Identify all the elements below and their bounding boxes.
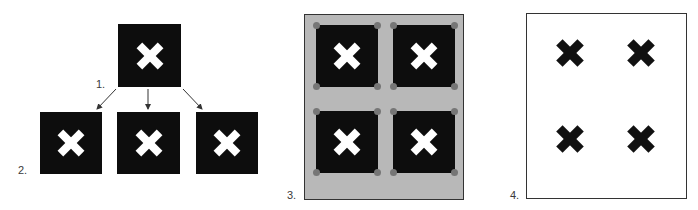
corner-dot-icon — [451, 169, 458, 176]
x-mark-icon — [409, 41, 439, 71]
corner-dot-icon — [374, 22, 381, 29]
corner-dot-icon — [313, 169, 320, 176]
corner-dot-icon — [313, 83, 320, 90]
copy-tile-2 — [117, 112, 180, 174]
sheet-tile-top-right — [393, 25, 455, 87]
gray-sheet — [304, 14, 464, 200]
x-mark-icon — [626, 124, 656, 154]
x-mark-icon — [626, 38, 656, 68]
corner-dot-icon — [451, 22, 458, 29]
x-mark-icon — [555, 124, 585, 154]
x-mark-icon — [409, 127, 439, 157]
step1-label: 1. — [96, 79, 105, 90]
corner-dot-icon — [374, 83, 381, 90]
copy-tile-3 — [196, 112, 258, 174]
step3-label: 3. — [287, 190, 296, 201]
arrow-right-icon — [183, 89, 202, 109]
x-mark-icon — [212, 128, 242, 158]
corner-dot-icon — [451, 83, 458, 90]
x-mark-icon — [555, 38, 585, 68]
arrow-left-icon — [97, 89, 116, 109]
sheet-tile-bottom-left — [316, 111, 378, 173]
step2-label: 2. — [18, 165, 27, 176]
corner-dot-icon — [390, 83, 397, 90]
step4-label: 4. — [510, 190, 519, 201]
corner-dot-icon — [451, 108, 458, 115]
printed-sheet — [526, 13, 687, 199]
corner-dot-icon — [313, 108, 320, 115]
corner-dot-icon — [313, 22, 320, 29]
x-mark-icon — [134, 128, 164, 158]
original-tile — [118, 24, 181, 87]
corner-dot-icon — [374, 108, 381, 115]
sheet-tile-top-left — [316, 25, 378, 87]
corner-dot-icon — [390, 22, 397, 29]
x-mark-icon — [332, 127, 362, 157]
corner-dot-icon — [390, 169, 397, 176]
x-mark-icon — [135, 41, 165, 71]
x-mark-icon — [56, 128, 86, 158]
corner-dot-icon — [390, 108, 397, 115]
copy-tile-1 — [40, 112, 102, 174]
sheet-tile-bottom-right — [393, 111, 455, 173]
x-mark-icon — [332, 41, 362, 71]
corner-dot-icon — [374, 169, 381, 176]
